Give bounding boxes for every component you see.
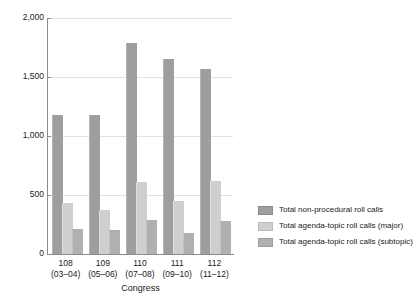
x-axis-title: Congress	[47, 283, 234, 293]
y-axis-tick-label: 500	[0, 190, 44, 199]
legend-label: Total non-procedural roll calls	[279, 205, 383, 215]
bar	[109, 230, 120, 254]
y-axis-tick-label-text: 1,500	[4, 72, 44, 81]
legend: Total non-procedural roll callsTotal age…	[258, 203, 414, 251]
bar	[220, 221, 231, 254]
legend-item: Total non-procedural roll calls	[258, 203, 414, 217]
y-axis-tick-label-text: 1,000	[4, 131, 44, 140]
x-axis-group-label-congress: 112	[192, 258, 236, 269]
y-axis-tick-label: 1,500	[0, 72, 44, 81]
x-axis-group-label: 112(11–12)	[192, 258, 236, 280]
x-axis-line	[47, 254, 234, 255]
y-axis-tick-label-text: 2,000	[4, 13, 44, 22]
legend-item: Total agenda-topic roll calls (subtopic)	[258, 235, 414, 249]
y-axis-tick-mark	[47, 254, 51, 255]
legend-swatch	[258, 206, 273, 215]
bar-chart: 05001,0001,5002,000 108(03–04)109(05–06)…	[0, 0, 416, 305]
bar	[183, 233, 194, 254]
legend-item: Total agenda-topic roll calls (major)	[258, 219, 414, 233]
legend-swatch	[258, 222, 273, 231]
y-axis-tick-label: 1,000	[0, 131, 44, 140]
y-axis-tick-label: 0	[0, 249, 44, 258]
legend-label: Total agenda-topic roll calls (subtopic)	[279, 237, 413, 247]
y-axis-tick-label-text: 500	[4, 190, 44, 199]
x-axis-group-label-years: (11–12)	[192, 269, 236, 280]
legend-swatch	[258, 238, 273, 247]
y-axis-tick-label: 2,000	[0, 13, 44, 22]
bar	[72, 229, 83, 254]
y-axis-tick-label-text: 0	[4, 249, 44, 258]
plot-area	[47, 18, 233, 254]
legend-label: Total agenda-topic roll calls (major)	[279, 221, 403, 231]
bar	[146, 220, 157, 254]
